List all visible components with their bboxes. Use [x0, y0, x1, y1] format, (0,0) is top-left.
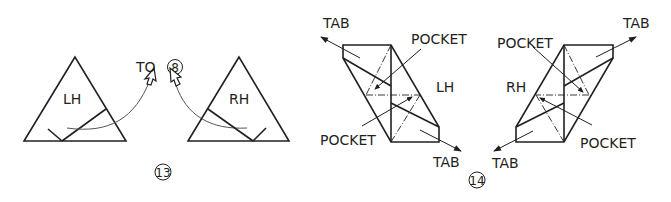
step-number-13: 13 — [155, 164, 171, 180]
rh-folded-piece: TAB POCKET RH POCKET TAB — [491, 15, 650, 171]
rh-label: RH — [506, 79, 526, 95]
tab-direction-arrow-icon — [596, 37, 636, 57]
tab-label-bottom: TAB — [491, 155, 519, 171]
lh-label: LH — [63, 91, 81, 107]
pocket-label-top: POCKET — [411, 31, 467, 47]
to-label: TO — [135, 59, 156, 75]
rh-label: RH — [229, 91, 249, 107]
pocket-label-bottom: POCKET — [580, 135, 636, 151]
diagram-canvas: LH TO 8 RH 13 — [0, 0, 671, 202]
tab-direction-arrow-icon — [494, 131, 533, 151]
tab-label-bottom: TAB — [432, 154, 460, 170]
lh-folded-piece: TAB POCKET LH POCKET TAB — [320, 15, 467, 170]
tab-direction-arrow-icon — [420, 130, 461, 151]
step-number: 14 — [469, 174, 484, 188]
tab-direction-arrow-icon — [321, 37, 360, 58]
tab-label-top: TAB — [322, 15, 350, 31]
pocket-leader-arrow-icon — [362, 97, 412, 126]
tab-label-top: TAB — [622, 15, 650, 31]
lh-label: LH — [436, 79, 454, 95]
step-number-14: 14 — [469, 172, 485, 188]
step-number: 13 — [155, 166, 170, 180]
pocket-label-top: POCKET — [497, 35, 553, 51]
pocket-label-bottom: POCKET — [320, 132, 376, 148]
